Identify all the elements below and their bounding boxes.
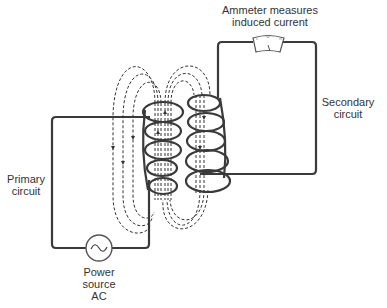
secondary-circuit-label: Secondary circuit (318, 96, 378, 120)
power-source-label: Power source AC (74, 266, 124, 302)
ammeter-label-line2: induced current (215, 16, 325, 28)
primary-circuit-wire (52, 117, 150, 248)
source-label-line3: AC (74, 290, 124, 302)
ammeter-icon (253, 35, 284, 52)
source-label-line1: Power (74, 266, 124, 278)
ac-source-icon (86, 235, 112, 261)
source-label-line2: source (74, 278, 124, 290)
secondary-coil (186, 95, 230, 192)
primary-label-line2: circuit (4, 185, 48, 197)
secondary-label-line2: circuit (318, 108, 378, 120)
transformer-diagram (0, 0, 387, 308)
primary-label-line1: Primary (4, 173, 48, 185)
secondary-label-line1: Secondary (318, 96, 378, 108)
primary-circuit-label: Primary circuit (4, 173, 48, 197)
ammeter-label-line1: Ammeter measures (215, 4, 325, 16)
ammeter-label: Ammeter measures induced current (215, 4, 325, 28)
